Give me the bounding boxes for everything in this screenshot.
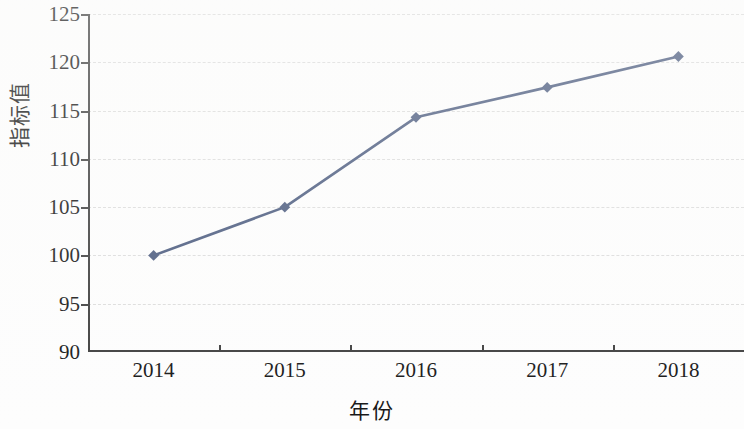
data-point-marker	[673, 51, 684, 62]
x-tick-label: 2015	[225, 358, 345, 383]
x-axis-title: 年份	[0, 394, 744, 424]
data-point-marker	[148, 250, 159, 261]
x-tick-label: 2017	[487, 358, 607, 383]
x-tick-label: 2016	[356, 358, 476, 383]
y-tick-mark	[81, 62, 88, 64]
y-tick-label: 95	[22, 294, 80, 315]
x-tick-label: 2014	[94, 358, 214, 383]
y-tick-label: 110	[22, 149, 80, 170]
data-point-marker	[542, 82, 553, 93]
x-tick-label: 2018	[618, 358, 738, 383]
y-tick-label: 105	[22, 197, 80, 218]
y-tick-label: 120	[22, 52, 80, 73]
y-tick-mark	[81, 111, 88, 113]
y-tick-mark	[81, 255, 88, 257]
y-tick-mark	[81, 207, 88, 209]
plot-area	[88, 14, 744, 352]
y-tick-label: 115	[22, 101, 80, 122]
x-axis-tick-label-group: 20142015201620172018	[88, 358, 744, 392]
y-tick-label: 90	[22, 342, 80, 363]
y-tick-label: 125	[22, 4, 80, 25]
series-marker-group	[148, 51, 684, 261]
y-tick-mark	[81, 304, 88, 306]
series-line-indicator	[154, 56, 679, 255]
y-tick-mark	[81, 14, 88, 16]
data-series-layer	[88, 14, 744, 352]
y-tick-mark	[81, 159, 88, 161]
y-axis-tick-label-group: 9095100105110115120125	[18, 0, 80, 429]
line-chart-figure: 指标值 9095100105110115120125 2014201520162…	[0, 0, 744, 429]
y-tick-label: 100	[22, 245, 80, 266]
